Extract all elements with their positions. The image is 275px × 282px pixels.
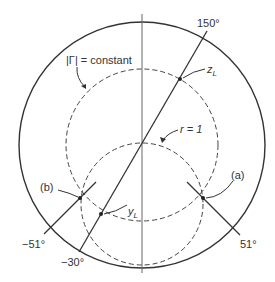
label-yL: yL (127, 205, 138, 220)
label-b: (b) (40, 181, 53, 193)
arrow-gamma-label (77, 67, 85, 87)
label-150: 150° (197, 17, 220, 29)
label-neg30: −30° (61, 256, 84, 268)
arrow-b-label (58, 190, 78, 197)
arrow-zL-label (183, 69, 205, 78)
label-zL: zL (206, 63, 217, 78)
point-a (201, 196, 205, 200)
label-gamma-constant: |Γ| = constant (66, 54, 132, 66)
label-neg51: −51° (22, 238, 45, 250)
arrow-a-label (206, 181, 233, 198)
arrow-r1-label (163, 130, 178, 140)
label-a: (a) (231, 169, 244, 181)
point-yL (99, 212, 103, 216)
smith-chart-diagram: |Γ| = constant 150° zL r = 1 (a) (b) yL … (0, 0, 275, 282)
label-51: 51° (240, 238, 257, 250)
label-r1: r = 1 (180, 123, 202, 135)
line-51-deg (187, 182, 240, 235)
point-zL (178, 77, 182, 81)
point-b (78, 196, 82, 200)
